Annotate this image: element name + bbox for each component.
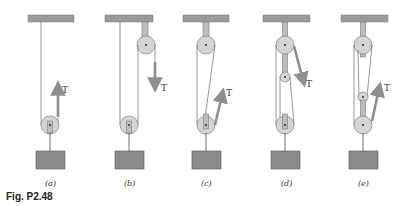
panel-label: (a) <box>45 179 56 188</box>
tension-arrow <box>215 95 222 125</box>
pulley-bracket <box>204 114 209 129</box>
tension-arrow <box>372 89 379 121</box>
panel-b: T (b) <box>105 15 167 188</box>
rope <box>205 45 215 118</box>
panel-c: T (c) <box>183 15 232 188</box>
ceiling <box>28 15 74 22</box>
panel-e: T (e) <box>341 15 390 188</box>
ceiling <box>263 15 310 22</box>
axle <box>284 124 286 126</box>
tension-label: T <box>306 79 312 89</box>
axle <box>205 44 207 46</box>
tension-label: T <box>62 85 68 95</box>
axle <box>362 124 364 126</box>
panel-label: (e) <box>358 179 369 188</box>
axle <box>145 44 147 46</box>
load-block <box>271 151 300 169</box>
axle <box>128 124 130 126</box>
axle <box>284 76 286 78</box>
figure-caption: Fig. P2.48 <box>6 191 53 202</box>
axle <box>362 44 364 46</box>
panel-label: (b) <box>124 179 135 188</box>
panel-d: T (d) <box>263 15 312 188</box>
tension-label: T <box>384 83 390 93</box>
load-block <box>115 151 144 169</box>
ceiling <box>183 15 229 22</box>
axle <box>205 124 207 126</box>
panel-label: (c) <box>201 179 212 188</box>
load-block <box>192 151 221 169</box>
load-block <box>36 151 65 169</box>
rope <box>358 50 359 97</box>
panel-label: (d) <box>281 179 292 188</box>
ceiling <box>341 15 388 22</box>
tension-label: T <box>161 83 167 93</box>
axle <box>49 124 51 126</box>
tension-label: T <box>226 88 232 98</box>
panel-a: T (a) <box>28 15 74 188</box>
load-block <box>349 151 378 169</box>
tension-arrow <box>294 46 303 80</box>
axle <box>362 96 364 98</box>
pulley-bracket <box>48 121 53 133</box>
pulley-bracket <box>283 114 288 129</box>
pulley-bracket <box>127 121 132 133</box>
ceiling <box>105 15 153 22</box>
axle <box>284 44 286 46</box>
pulley-diagram: T (a) T (b) T (c) <box>0 0 408 206</box>
